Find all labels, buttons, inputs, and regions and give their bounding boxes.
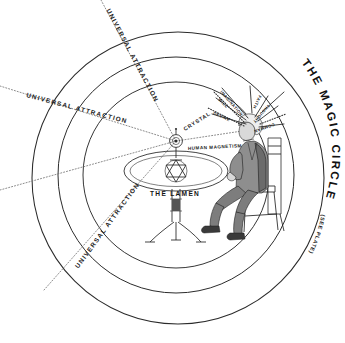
- plate-title-note-path: (SEE PLATE): [308, 214, 327, 255]
- operator-shoe-2: [227, 233, 245, 240]
- operator-shin-2: [234, 212, 245, 234]
- ua-top-text: UNIVERSAL ATTRACTION: [105, 7, 160, 103]
- ua-left-text: UNIVERSAL ATTRACTION: [26, 91, 129, 124]
- crystal-label: CRYSTAL: [182, 110, 211, 131]
- operator-shoe: [201, 226, 220, 233]
- plate-title: THE MAGIC CIRCLE: [300, 57, 343, 202]
- lamen-hexagram: [165, 160, 187, 182]
- lamen-ring: [165, 160, 187, 182]
- table-column-band: [172, 199, 180, 211]
- plate-title-path: THE MAGIC CIRCLE: [300, 57, 343, 202]
- crystal-label-text: CRYSTAL: [182, 110, 211, 131]
- lamen-label-text: THE LAMEN: [150, 190, 200, 197]
- emanation-line-7: [250, 86, 252, 113]
- emanation-label-2-text: DESIRE: [213, 110, 231, 122]
- chair-stretcher: [245, 214, 277, 216]
- chair-back: [268, 138, 281, 214]
- universal-attraction-label-left: UNIVERSAL ATTRACTION: [26, 91, 129, 124]
- human-magnetism-label: HUMAN MAGNETISM: [188, 143, 242, 151]
- table-leg-right: [178, 222, 201, 242]
- magic-circle-plate: THE MAGIC CIRCLE (SEE PLATE) UNIVERSAL A…: [0, 0, 345, 343]
- crystal-finial-bead: [175, 128, 177, 130]
- chair-leg-rear: [280, 214, 284, 231]
- emanation-label-2: DESIRE: [213, 110, 231, 122]
- table-leg-left: [150, 222, 174, 242]
- plate-canvas: THE MAGIC CIRCLE (SEE PLATE) UNIVERSAL A…: [0, 0, 345, 343]
- universal-attraction-label-top: UNIVERSAL ATTRACTION: [105, 7, 160, 103]
- crystal-core: [175, 140, 178, 143]
- human-magnetism-label-text: HUMAN MAGNETISM: [188, 143, 242, 151]
- plate-title-note: (SEE PLATE): [308, 214, 327, 255]
- operator-shin: [210, 203, 224, 228]
- attraction-ray-left-low: [0, 141, 176, 190]
- lamen-label: THE LAMEN: [150, 190, 200, 197]
